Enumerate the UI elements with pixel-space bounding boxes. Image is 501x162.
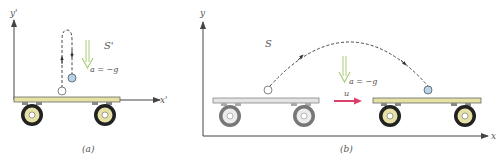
wheel-icon <box>379 105 401 127</box>
velocity-arrow-icon <box>334 98 362 105</box>
figure-a: y' x' S' a = −g <box>9 8 168 154</box>
diagram-canvas: y' x' S' a = −g <box>0 0 501 162</box>
wheel-icon <box>21 104 43 126</box>
wheel-icon <box>219 105 241 127</box>
wheel-icon <box>454 105 476 127</box>
wheel-icon <box>293 105 315 127</box>
ball-end-b <box>424 86 432 94</box>
x-axis-label: x <box>491 131 496 141</box>
velocity-label: u <box>344 89 349 98</box>
acceleration-arrow-icon <box>82 40 93 68</box>
acceleration-label-a: a = −g <box>90 65 118 74</box>
frame-label-b: S <box>265 38 272 49</box>
y-prime-axis-label: y' <box>9 8 18 18</box>
y-axis-label: y <box>199 8 206 18</box>
acceleration-label-b: a = −g <box>349 77 377 86</box>
ball-start-a <box>58 87 66 95</box>
caption-a: (a) <box>82 144 95 154</box>
trajectory-arrowhead-icon <box>401 60 405 64</box>
cart-initial-b <box>213 98 319 127</box>
wheel-icon <box>94 104 116 126</box>
ball-start-b <box>264 86 272 94</box>
caption-b: (b) <box>340 144 353 154</box>
figure-b: y x S a = −g u <box>199 8 496 154</box>
cart-final-b <box>373 98 481 127</box>
frame-label-a: S' <box>104 40 114 51</box>
ball-end-a <box>68 74 76 82</box>
x-prime-axis-label: x' <box>160 95 168 105</box>
cart-a <box>14 97 120 126</box>
